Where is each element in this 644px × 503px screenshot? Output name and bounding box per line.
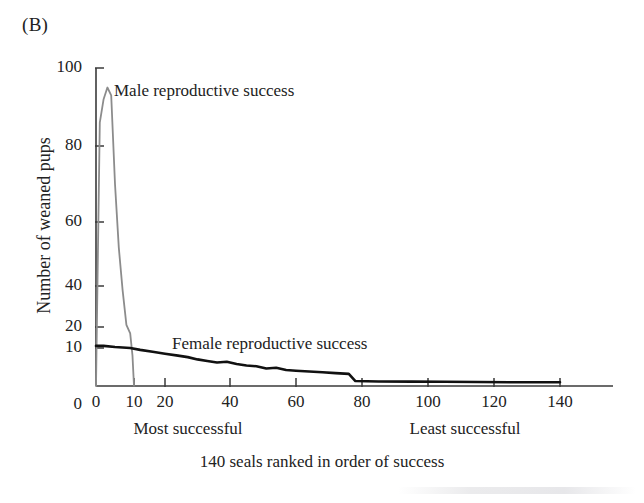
- female-series-label: Female reproductive success: [172, 334, 367, 354]
- y-tick-label: 60: [30, 211, 82, 231]
- scan-artifact: [398, 487, 636, 494]
- y-tick-label: 10: [30, 337, 82, 357]
- x-tick-label: 80: [337, 392, 387, 412]
- y-tick-label: 100: [30, 57, 82, 77]
- y-tick-label: 80: [30, 135, 82, 155]
- male-series-label: Male reproductive success: [114, 81, 294, 101]
- figure-panel-b: (B) Number of weaned pups 01020406080100…: [0, 0, 644, 503]
- x-tick-label: 120: [469, 392, 519, 412]
- y-tick-label: 20: [30, 316, 82, 336]
- x-tick-label: 100: [403, 392, 453, 412]
- x-tick-label: 20: [140, 392, 190, 412]
- x-axis-note-least-successful: Least successful: [375, 419, 555, 439]
- x-axis-note-most-successful: Most successful: [98, 419, 278, 439]
- x-tick-label: 60: [271, 392, 321, 412]
- y-tick-label: 40: [30, 275, 82, 295]
- x-tick-label: 40: [205, 392, 255, 412]
- male-reproductive-success-line: [96, 88, 134, 387]
- x-tick-label: 140: [535, 392, 585, 412]
- figure-caption: 140 seals ranked in order of success: [0, 452, 644, 472]
